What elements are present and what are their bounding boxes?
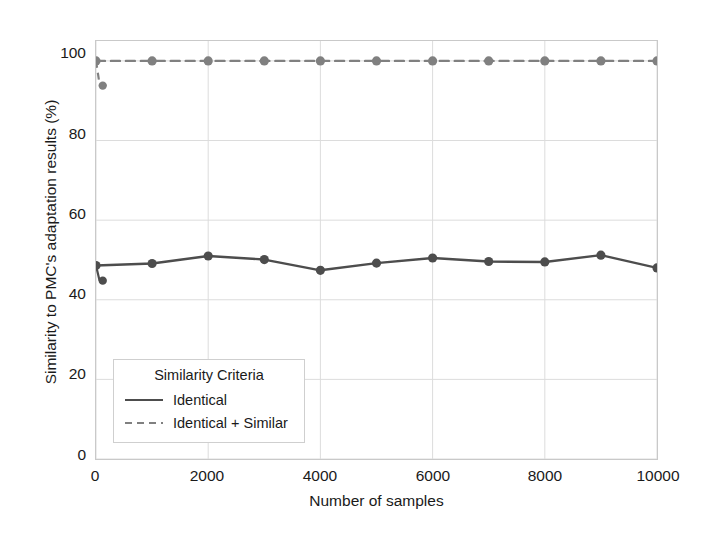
data-point-marker xyxy=(204,56,213,65)
data-point-marker xyxy=(540,56,549,65)
data-point-marker xyxy=(316,266,325,275)
x-tick-label-0: 0 xyxy=(50,466,140,486)
data-point-marker xyxy=(260,56,269,65)
legend-label-identical: Identical xyxy=(173,392,227,408)
x-axis-label: Number of samples xyxy=(95,492,658,510)
y-axis-label: Similarity to PMC's adaptation results (… xyxy=(34,8,68,476)
data-point-marker xyxy=(652,56,657,65)
x-tick-label-6000: 6000 xyxy=(388,466,478,486)
data-point-marker xyxy=(96,56,101,65)
figure: Similarity to PMC's adaptation results (… xyxy=(0,0,709,537)
data-point-marker xyxy=(99,81,107,89)
legend-swatch-dashed-line-icon xyxy=(124,416,164,430)
legend-item-identical[interactable]: Identical xyxy=(124,388,294,411)
x-tick-label-8000: 8000 xyxy=(500,466,590,486)
data-point-marker xyxy=(316,56,325,65)
data-point-marker xyxy=(484,257,493,266)
data-point-marker xyxy=(596,56,605,65)
data-point-marker xyxy=(540,257,549,266)
data-point-marker xyxy=(372,56,381,65)
y-tick-label-100: 100 xyxy=(8,44,86,62)
y-tick-label-60: 60 xyxy=(8,205,86,223)
x-tick-label-10000: 10000 xyxy=(613,466,703,486)
series-identical xyxy=(96,251,657,285)
x-tick-label-4000: 4000 xyxy=(275,466,365,486)
y-tick-label-0: 0 xyxy=(8,446,86,464)
data-series-layer xyxy=(96,56,657,285)
data-point-marker xyxy=(428,253,437,262)
data-point-marker xyxy=(372,259,381,268)
x-tick-label-2000: 2000 xyxy=(162,466,252,486)
data-point-marker xyxy=(260,255,269,264)
data-point-marker xyxy=(148,56,157,65)
legend-label-identical-similar: Identical + Similar xyxy=(173,415,288,431)
y-tick-label-40: 40 xyxy=(8,285,86,303)
legend-item-identical-similar[interactable]: Identical + Similar xyxy=(124,411,294,434)
data-point-marker xyxy=(204,251,213,260)
data-point-marker xyxy=(428,56,437,65)
data-point-marker xyxy=(596,251,605,260)
legend: Similarity Criteria Identical Identical … xyxy=(113,359,305,443)
y-tick-label-20: 20 xyxy=(8,365,86,383)
data-point-marker xyxy=(484,56,493,65)
legend-title: Similarity Criteria xyxy=(124,367,294,383)
data-point-marker xyxy=(148,259,157,268)
y-tick-label-80: 80 xyxy=(8,125,86,143)
data-point-marker xyxy=(652,263,657,272)
data-point-marker xyxy=(96,261,101,270)
data-point-marker xyxy=(99,276,107,284)
legend-swatch-solid-line-icon xyxy=(124,393,164,407)
